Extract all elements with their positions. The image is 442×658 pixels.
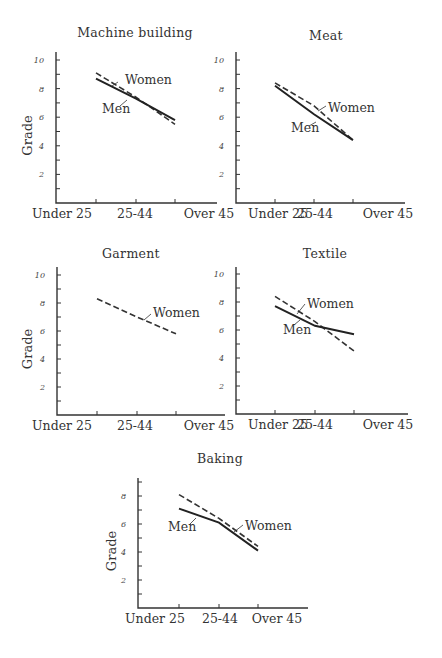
x-tick-label: Under 25 (32, 418, 92, 433)
y-tick-label: 2 (218, 382, 224, 391)
x-tick-label: 25-44 (117, 206, 153, 221)
y-tick-label: 4 (218, 142, 224, 151)
y-tick-label: 6 (219, 326, 224, 335)
x-tick-label: 25-44 (297, 206, 333, 221)
y-tick-label: 8 (40, 299, 45, 308)
y-tick-label: 2 (38, 170, 44, 179)
x-tick-label: Over 45 (252, 611, 303, 626)
y-tick-label: 2 (120, 576, 126, 585)
y-tick-label: 2 (39, 383, 45, 392)
chart-title: Baking (197, 451, 243, 466)
series-label-men: Men (291, 120, 319, 135)
y-tick-label: 6 (40, 327, 45, 336)
chart-machine-building: Machine building246810Under 2525-44Over … (20, 25, 234, 221)
x-tick-label: 25-44 (117, 418, 153, 433)
chart-baking: Baking2468Under 2525-44Over 45GradeWomen… (104, 451, 308, 626)
y-tick-label: 8 (39, 85, 44, 94)
y-tick-label: 10 (35, 271, 45, 280)
series-label-men: Men (283, 322, 311, 337)
series-label-women: Women (328, 100, 375, 115)
series-label-women: Women (153, 305, 200, 320)
figure: Machine building246810Under 2525-44Over … (0, 0, 442, 658)
chart-title: Meat (309, 28, 343, 43)
chart-garment: Garment246810Under 2525-44Over 45GradeWo… (20, 246, 234, 433)
x-tick-label: 25-44 (297, 417, 333, 432)
y-tick-label: 8 (121, 492, 126, 501)
y-tick-label: 10 (34, 56, 44, 65)
y-tick-label: 4 (38, 142, 44, 151)
y-tick-label: 8 (219, 85, 224, 94)
x-tick-label: 25-44 (202, 611, 238, 626)
y-tick-label: 10 (214, 270, 224, 279)
series-label-men: Men (168, 519, 196, 534)
x-tick-label: Under 25 (125, 611, 185, 626)
y-axis-label: Grade (20, 329, 35, 370)
y-tick-label: 4 (120, 548, 126, 557)
y-tick-label: 4 (39, 355, 45, 364)
x-tick-label: Over 45 (363, 417, 414, 432)
label-leader-line (318, 106, 326, 111)
axes (57, 267, 225, 415)
y-tick-label: 6 (39, 113, 44, 122)
y-axis-label: Grade (104, 531, 119, 572)
chart-textile: Textile246810Under 2525-44Over 45WomenMe… (214, 246, 413, 432)
series-label-women: Women (125, 72, 172, 87)
chart-meat: Meat246810Under 2525-44Over 45WomenMen (214, 28, 413, 221)
y-tick-label: 10 (214, 56, 224, 65)
chart-title: Garment (102, 246, 160, 261)
y-axis-label: Grade (20, 115, 35, 156)
chart-title: Machine building (77, 25, 193, 40)
y-tick-label: 6 (219, 113, 224, 122)
label-leader-line (234, 525, 243, 532)
series-label-women: Women (307, 296, 354, 311)
chart-title: Textile (303, 246, 347, 261)
label-leader-line (144, 314, 151, 320)
axes (138, 478, 308, 608)
x-tick-label: Under 25 (32, 206, 92, 221)
x-tick-label: Over 45 (184, 206, 235, 221)
y-tick-label: 6 (121, 520, 126, 529)
axes (236, 52, 405, 203)
y-tick-label: 4 (218, 354, 224, 363)
y-tick-label: 2 (218, 170, 224, 179)
axes (236, 267, 408, 414)
y-tick-label: 8 (219, 298, 224, 307)
x-tick-label: Over 45 (363, 206, 414, 221)
x-tick-label: Over 45 (184, 418, 235, 433)
series-label-men: Men (102, 101, 130, 116)
series-label-women: Women (245, 518, 292, 533)
